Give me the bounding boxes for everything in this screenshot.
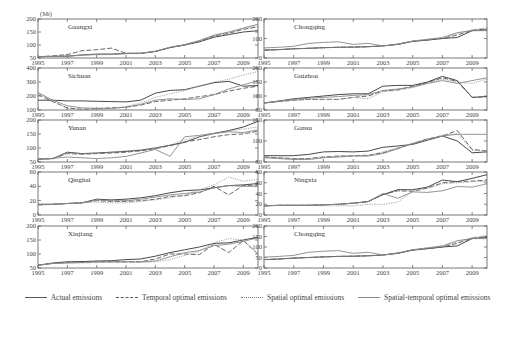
panel-title: Guangxi <box>68 23 92 31</box>
x-tick-label: 2003 <box>376 59 389 66</box>
x-tick-label: 1999 <box>90 216 103 223</box>
x-tick-label: 2001 <box>120 269 133 276</box>
panel-gansu: 5010015019951997199920012003200520072009… <box>252 116 487 170</box>
x-tick-label: 2009 <box>237 216 250 223</box>
x-tick-label: 2009 <box>466 269 479 276</box>
x-tick-label: 2003 <box>376 163 389 170</box>
legend-label: Actual emissions <box>51 293 102 302</box>
x-tick-label: 1995 <box>258 269 271 276</box>
x-tick-label: 1997 <box>287 269 301 276</box>
y-tick-label: 50 <box>256 254 263 261</box>
x-tick-label: 2001 <box>120 59 133 66</box>
y-tick-label: 100 <box>252 35 262 42</box>
panel-chongqing-2: 0501001502001995199719992001200320052007… <box>252 222 487 276</box>
series-line-3 <box>264 28 487 50</box>
x-tick-label: 1997 <box>61 269 75 276</box>
y-tick-label: 200 <box>252 64 262 71</box>
legend-item-temporal: Temporal optimal emissions <box>116 293 227 302</box>
x-tick-label: 2003 <box>149 216 162 223</box>
y-tick-label: 60 <box>30 168 37 175</box>
panel-ningxia: 0204060801995199719992001200320052007200… <box>256 168 488 223</box>
panel-title: Sichuan <box>68 72 91 80</box>
x-tick-label: 1997 <box>287 216 301 223</box>
series-line-1 <box>264 30 487 51</box>
panel-title: Yunan <box>68 124 86 132</box>
x-tick-label: 2007 <box>208 59 222 66</box>
series-line-2 <box>38 131 258 159</box>
legend-item-spatial-temporal: Spatial-temporal optimal emissions <box>358 293 490 302</box>
panel-guangxi: 5010015020019951997199920012003200520072… <box>26 15 258 66</box>
x-tick-label: 2003 <box>376 269 389 276</box>
y-tick-label: 200 <box>26 116 36 123</box>
x-tick-label: 1999 <box>90 111 103 118</box>
x-tick-label: 2001 <box>120 216 133 223</box>
series-line-1 <box>38 184 258 205</box>
legend-item-spatial: Spatial optimal emissions <box>241 293 344 302</box>
panel-chongqing: 010020019951997199920012003200520072009C… <box>252 15 487 66</box>
x-tick-label: 2009 <box>237 59 250 66</box>
y-tick-label: 300 <box>26 78 36 85</box>
series-line-1 <box>264 238 487 260</box>
x-tick-label: 2007 <box>208 216 222 223</box>
x-tick-label: 2005 <box>406 216 419 223</box>
x-tick-label: 1997 <box>287 163 301 170</box>
legend-solid-line-icon <box>25 297 47 298</box>
y-tick-label: 100 <box>252 243 262 250</box>
series-line-4 <box>38 130 258 159</box>
x-tick-label: 1997 <box>61 111 75 118</box>
x-tick-label: 1999 <box>317 269 330 276</box>
y-tick-label: 150 <box>26 130 36 137</box>
series-line-2 <box>38 86 258 109</box>
x-tick-label: 2007 <box>436 163 450 170</box>
x-tick-label: 2007 <box>208 163 222 170</box>
x-tick-label: 2009 <box>466 111 479 118</box>
series-line-4 <box>264 184 487 206</box>
x-tick-label: 2001 <box>347 163 360 170</box>
panel-guizhou: 5010015020019951997199920012003200520072… <box>252 64 487 118</box>
x-tick-label: 2001 <box>347 111 360 118</box>
panel-title: Chongqing <box>294 23 326 31</box>
x-tick-label: 2005 <box>178 163 191 170</box>
panel-title: Guizhou <box>294 72 319 80</box>
series-line-4 <box>38 81 258 109</box>
x-tick-label: 2005 <box>178 111 191 118</box>
x-tick-label: 2009 <box>237 163 250 170</box>
x-tick-label: 1995 <box>32 269 45 276</box>
x-tick-label: 1999 <box>317 59 330 66</box>
y-tick-label: 100 <box>26 250 36 257</box>
x-tick-label: 2005 <box>406 269 419 276</box>
x-tick-label: 2007 <box>208 111 222 118</box>
x-tick-label: 2001 <box>347 216 360 223</box>
panel-title: Ningxia <box>294 176 317 184</box>
panel-qinghai: 020406019951997199920012003200520072009Q… <box>30 168 259 223</box>
x-tick-label: 2001 <box>347 269 360 276</box>
y-tick-label: 60 <box>256 179 263 186</box>
x-tick-label: 1997 <box>61 59 75 66</box>
x-tick-label: 2009 <box>466 163 479 170</box>
legend-item-actual: Actual emissions <box>25 293 102 302</box>
y-tick-label: 150 <box>252 116 262 123</box>
x-tick-label: 2005 <box>178 269 191 276</box>
x-tick-label: 1999 <box>90 269 103 276</box>
y-tick-label: 200 <box>252 222 262 229</box>
series-line-1 <box>38 31 258 57</box>
y-tick-label: 80 <box>256 168 263 175</box>
x-tick-label: 2001 <box>120 163 133 170</box>
x-tick-label: 2007 <box>436 59 450 66</box>
y-tick-label: 100 <box>26 144 36 151</box>
panel-yunan: 5010015020019951997199920012003200520072… <box>26 116 258 170</box>
series-line-3 <box>264 182 487 206</box>
series-line-4 <box>38 238 258 265</box>
y-tick-label: 100 <box>26 41 36 48</box>
y-tick-label: 20 <box>30 197 37 204</box>
x-tick-label: 1999 <box>317 163 330 170</box>
x-tick-label: 2005 <box>406 163 419 170</box>
series-line-2 <box>264 29 487 50</box>
panel-title: Chongqing <box>294 230 326 238</box>
x-tick-label: 2005 <box>178 59 191 66</box>
x-tick-label: 1999 <box>90 59 103 66</box>
y-tick-label: 150 <box>26 236 36 243</box>
x-tick-label: 2003 <box>376 111 389 118</box>
y-tick-label: 150 <box>252 78 262 85</box>
y-tick-label: 100 <box>252 137 262 144</box>
